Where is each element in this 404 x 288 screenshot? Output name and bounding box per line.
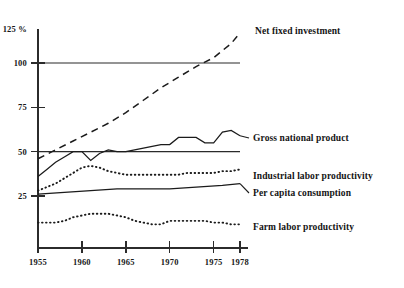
x-tick-label-1978: 1978 (225, 258, 255, 267)
series-line-industrial-labor-productivity (38, 166, 240, 191)
leader-line-per-capita-consumption (240, 184, 249, 193)
series-label-industrial-labor-productivity: Industrial labor productivity (253, 172, 373, 182)
series-label-per-capita-consumption: Per capita consumption (253, 189, 351, 199)
series-line-net-fixed-investment (38, 33, 240, 159)
series-line-farm-labor-productivity (38, 214, 240, 225)
leader-line-gross-national-product (240, 136, 249, 138)
chart-container: 125 %100755025 195519601965197019751978 … (0, 0, 404, 288)
series-label-gross-national-product: Gross national product (253, 134, 349, 144)
chart-plot-area (0, 0, 404, 288)
x-tick-label-1965: 1965 (111, 258, 141, 267)
x-tick-label-1955: 1955 (23, 258, 53, 267)
series-line-per-capita-consumption (38, 184, 240, 195)
reference-lines-group (38, 63, 240, 152)
y-tick-label-50: 50 (0, 148, 27, 157)
y-tick-label-100: 100 (0, 59, 27, 68)
y-tick-label-125: 125 % (0, 25, 27, 34)
y-tick-label-25: 25 (0, 192, 27, 201)
series-label-farm-labor-productivity: Farm labor productivity (253, 223, 354, 233)
leader-lines-group (240, 136, 249, 193)
y-tick-label-75: 75 (0, 103, 27, 112)
series-label-net-fixed-investment: Net fixed investment (255, 27, 340, 37)
series-group (38, 33, 240, 225)
series-line-gross-national-product (38, 130, 240, 176)
x-tick-label-1960: 1960 (67, 258, 97, 267)
x-tick-label-1970: 1970 (155, 258, 185, 267)
